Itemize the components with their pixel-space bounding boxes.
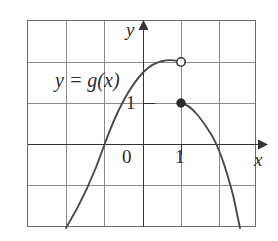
grid-vertical-lines bbox=[28, 21, 256, 227]
open-circle-marker bbox=[177, 58, 185, 66]
x-axis-arrow-icon bbox=[258, 140, 268, 150]
x-tick-label-one: 1 bbox=[175, 147, 185, 166]
x-axis bbox=[28, 140, 269, 150]
y-axis bbox=[139, 20, 149, 227]
graph-canvas bbox=[0, 0, 278, 241]
origin-label: 0 bbox=[122, 147, 132, 166]
y-tick-label-one: 1 bbox=[126, 93, 136, 112]
grid-horizontal-lines bbox=[28, 21, 256, 227]
graph-frame bbox=[28, 21, 256, 227]
function-annotation: y = g(x) bbox=[55, 70, 120, 90]
y-axis-arrow-icon bbox=[139, 20, 149, 30]
filled-dot-marker bbox=[177, 99, 185, 107]
y-axis-label: y bbox=[126, 20, 134, 39]
x-axis-label: x bbox=[254, 150, 262, 169]
graph-figure: y x 0 1 1 y = g(x) bbox=[0, 0, 278, 241]
curve-right-branch bbox=[181, 103, 240, 228]
